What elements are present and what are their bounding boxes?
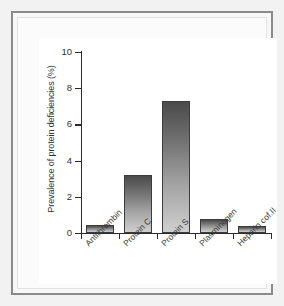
figure-outer-background: Prevalence of protein deficiencies (%) 0…	[0, 0, 284, 306]
y-axis-line	[81, 51, 82, 234]
y-axis-tick-label: 8	[67, 82, 75, 93]
x-axis-tick	[271, 233, 272, 239]
x-axis-tick	[233, 233, 234, 239]
y-axis-tick: 8	[75, 88, 81, 89]
y-axis-tick-label: 10	[61, 46, 75, 57]
y-axis-tick: 4	[75, 161, 81, 162]
x-axis-tick	[119, 233, 120, 239]
y-axis-tick-label: 2	[67, 191, 75, 202]
y-axis-tick-label: 0	[67, 227, 75, 238]
figure-frame-border: Prevalence of protein deficiencies (%) 0…	[11, 11, 273, 295]
bar-chart-plot-area: Prevalence of protein deficiencies (%) 0…	[39, 38, 277, 284]
x-axis-tick	[195, 233, 196, 239]
figure-inner-mat: Prevalence of protein deficiencies (%) 0…	[17, 17, 267, 289]
chart-card: Prevalence of protein deficiencies (%) 0…	[39, 38, 277, 284]
y-axis-tick: 10	[75, 52, 81, 53]
y-axis-tick: 2	[75, 197, 81, 198]
y-axis-tick: 6	[75, 124, 81, 125]
bar-protein-s	[162, 101, 189, 233]
y-axis-tick-label: 6	[67, 118, 75, 129]
y-axis-tick-label: 4	[67, 155, 75, 166]
x-axis-tick	[157, 233, 158, 239]
y-axis-title: Prevalence of protein deficiencies (%)	[46, 44, 56, 234]
x-axis-tick	[81, 233, 82, 239]
